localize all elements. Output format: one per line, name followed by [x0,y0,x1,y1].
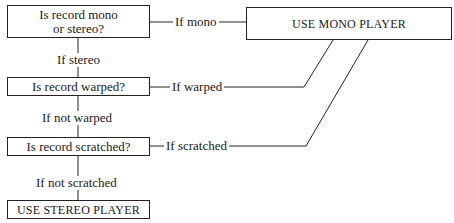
label-if-warped: If warped [170,80,224,94]
node-is-warped: Is record warped? [7,77,150,96]
node-text-line2: or stereo? [53,22,104,36]
node-mono-or-stereo: Is record mono or stereo? [7,5,150,38]
label-if-not-warped: If not warped [40,111,114,125]
node-text: Is record warped? [32,80,125,94]
label-if-not-scratched: If not scratched [34,176,119,190]
node-text: USE MONO PLAYER [292,17,406,31]
node-use-stereo-player: USE STEREO PLAYER [7,200,150,219]
label-if-stereo: If stereo [55,53,102,67]
node-text: Is record scratched? [27,140,131,154]
label-if-mono: If mono [173,15,219,29]
label-if-scratched: If scratched [164,139,229,153]
node-use-mono-player: USE MONO PLAYER [246,7,452,40]
node-text: USE STEREO PLAYER [17,203,140,217]
node-text-line1: Is record mono [39,8,118,22]
node-is-scratched: Is record scratched? [7,137,150,156]
